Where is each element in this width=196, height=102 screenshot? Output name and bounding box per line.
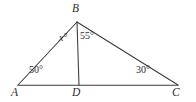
vertex-label-d: D: [72, 87, 80, 99]
vertex-label-b: B: [72, 3, 79, 15]
angle-label-abd: x°: [59, 33, 67, 43]
triangle-side-ab: [18, 22, 77, 85]
vertex-label-a: A: [11, 87, 18, 99]
degree-symbol: °: [63, 32, 67, 43]
angle-label-bcd: 30°: [136, 65, 150, 75]
angle-label-dbc: 55°: [80, 31, 94, 41]
vertex-label-c: C: [172, 87, 180, 99]
cevian-bd: [77, 22, 79, 85]
triangle-diagram-svg: [0, 0, 196, 102]
angle-label-bad: 50°: [29, 65, 43, 75]
geometry-figure: B A D C x° 55° 50° 30°: [0, 0, 196, 102]
